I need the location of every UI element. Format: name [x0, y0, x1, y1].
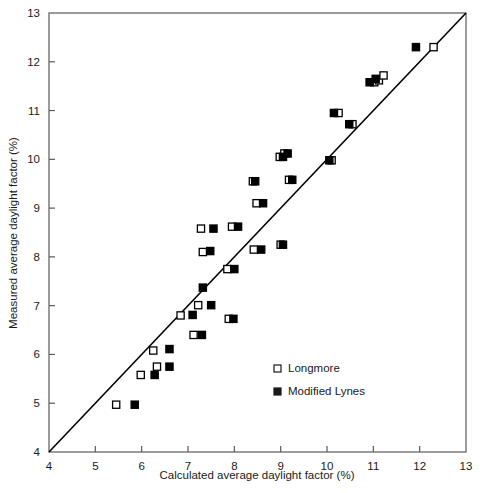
data-point-modified-lynes-15 — [252, 178, 259, 185]
data-point-modified-lynes-6 — [189, 311, 196, 318]
y-tick-label-13: 13 — [27, 7, 40, 19]
scatter-plot-figure: 45678910111213 45678910111213 Longmore M… — [0, 0, 486, 493]
data-point-modified-lynes-12 — [231, 265, 238, 272]
data-point-modified-lynes-1 — [151, 371, 158, 378]
data-point-modified-lynes-13 — [258, 246, 265, 253]
x-tick-label-12: 12 — [413, 460, 426, 472]
data-point-modified-lynes-2 — [166, 363, 173, 370]
data-point-modified-lynes-3 — [166, 345, 173, 352]
daylight-factor-scatter-chart: 45678910111213 45678910111213 Longmore M… — [0, 0, 486, 493]
data-point-modified-lynes-0 — [131, 401, 138, 408]
x-tick-label-11: 11 — [367, 460, 379, 472]
data-point-modified-lynes-4 — [198, 331, 205, 338]
data-point-longmore-6 — [177, 312, 184, 319]
data-point-longmore-1 — [137, 371, 144, 378]
data-point-modified-lynes-9 — [199, 284, 206, 291]
data-point-longmore-24 — [380, 72, 387, 79]
data-point-modified-lynes-20 — [326, 157, 333, 164]
y-tick-label-5: 5 — [34, 397, 40, 409]
legend-marker-modified-lynes — [274, 388, 281, 395]
x-axis-title: Calculated average daylight factor (%) — [160, 469, 355, 481]
y-tick-label-6: 6 — [34, 348, 40, 360]
data-point-longmore-4 — [190, 331, 197, 338]
data-point-longmore-5 — [195, 302, 202, 309]
data-point-modified-lynes-16 — [279, 241, 286, 248]
data-point-modified-lynes-7 — [230, 315, 237, 322]
y-tick-label-7: 7 — [34, 300, 40, 312]
y-tick-label-4: 4 — [34, 446, 41, 458]
x-tick-label-6: 6 — [138, 460, 144, 472]
x-tick-label-13: 13 — [460, 460, 473, 472]
data-point-modified-lynes-25 — [412, 44, 419, 51]
x-tick-label-4: 4 — [46, 460, 53, 472]
data-point-modified-lynes-11 — [234, 223, 241, 230]
data-point-longmore-11 — [224, 265, 231, 272]
data-point-longmore-25 — [430, 44, 437, 51]
y-tick-label-12: 12 — [27, 56, 40, 68]
data-point-modified-lynes-21 — [330, 109, 337, 116]
legend-label-modified-lynes: Modified Lynes — [288, 385, 365, 397]
legend-marker-longmore — [274, 365, 281, 372]
x-tick-label-5: 5 — [92, 460, 98, 472]
data-point-modified-lynes-19 — [289, 176, 296, 183]
y-axis-title: Measured average daylight factor (%) — [7, 137, 19, 329]
data-point-longmore-12 — [250, 246, 257, 253]
data-point-longmore-0 — [113, 401, 120, 408]
data-point-longmore-8 — [199, 248, 206, 255]
data-point-longmore-3 — [150, 347, 157, 354]
data-point-modified-lynes-22 — [346, 121, 353, 128]
legend-label-longmore: Longmore — [288, 362, 340, 374]
data-point-modified-lynes-5 — [208, 302, 215, 309]
y-tick-label-9: 9 — [34, 202, 40, 214]
y-tick-label-11: 11 — [28, 105, 40, 117]
data-point-modified-lynes-8 — [207, 247, 214, 254]
data-point-modified-lynes-24 — [372, 75, 379, 82]
y-tick-label-8: 8 — [34, 251, 40, 263]
y-tick-label-10: 10 — [27, 153, 40, 165]
data-point-modified-lynes-10 — [210, 225, 217, 232]
data-point-modified-lynes-14 — [259, 200, 266, 207]
data-point-longmore-2 — [153, 363, 160, 370]
chart-background — [0, 0, 486, 493]
data-point-modified-lynes-18 — [284, 150, 291, 157]
data-point-longmore-9 — [197, 225, 204, 232]
